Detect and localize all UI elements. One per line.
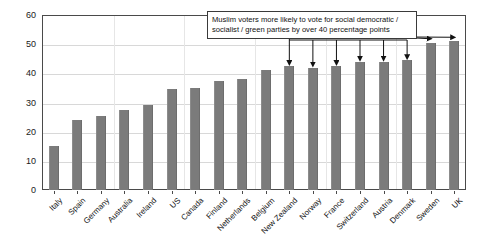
bar-slot [325,15,349,190]
bar-slot [160,15,184,190]
x-axis-label-australia: Australia [106,196,134,224]
bar-slot [278,15,302,190]
bars-layer [42,15,466,190]
x-axis-tick [431,191,432,194]
x-axis-tick [360,191,361,194]
x-axis-tick [124,191,125,194]
annotation-callout: Muslim voters more likely to vote for so… [207,11,417,39]
x-axis-label-italy: Italy [47,196,64,213]
x-axis-tick [336,191,337,194]
bar-spain [72,120,82,190]
bar-netherlands [237,79,247,190]
x-axis-tick [77,191,78,194]
y-axis-tick-label: 50 [26,40,36,49]
x-axis-label-canada: Canada [179,196,205,222]
y-axis-tick-label: 10 [26,156,36,165]
x-axis-tick [219,191,220,194]
x-axis-tick [384,191,385,194]
bar-slot [230,15,254,190]
bar-australia [119,110,129,190]
x-axis-tick [242,191,243,194]
bar-norway [308,68,318,191]
y-axis-tick-label: 20 [26,127,36,136]
bar-slot [442,15,466,190]
x-axis-tick [54,191,55,194]
x-axis-tick [266,191,267,194]
bar-italy [49,146,59,190]
y-axis-tick-label: 40 [26,69,36,78]
x-axis-tick [407,191,408,194]
bar-slot [372,15,396,190]
annotation-line-2: socialist / green parties by over 40 per… [212,25,412,35]
x-axis-tick [313,191,314,194]
bar-slot [254,15,278,190]
bar-france [331,66,341,190]
x-axis-label-ireland: Ireland [135,196,159,220]
bar-canada [190,88,200,190]
annotation-line-1: Muslim voters more likely to vote for so… [212,15,412,25]
bar-finland [214,81,224,190]
bar-slot [66,15,90,190]
bar-slot [419,15,443,190]
bar-slot [113,15,137,190]
x-axis-label-norway: Norway [298,196,324,222]
bar-new-zealand [284,66,294,190]
x-axis-label-us: US [168,196,182,210]
bar-slot [395,15,419,190]
x-axis-tick [195,191,196,194]
bar-slot [136,15,160,190]
bar-switzerland [355,62,365,190]
bar-slot [301,15,325,190]
bar-slot [42,15,66,190]
y-axis: 0102030405060 [0,0,42,205]
y-axis-tick-label: 0 [31,186,36,195]
x-axis-tick [172,191,173,194]
x-axis-tick [454,191,455,194]
bar-ireland [143,105,153,190]
y-axis-tick-label: 30 [26,98,36,107]
x-axis: ItalySpainGermanyAustraliaIrelandUSCanad… [42,191,466,250]
x-axis-tick [289,191,290,194]
x-axis-label-uk: UK [450,196,464,210]
bar-slot [207,15,231,190]
bar-slot [348,15,372,190]
bar-uk [449,41,459,190]
bar-us [167,89,177,190]
x-axis-label-sweden: Sweden [414,196,441,223]
x-axis-label-spain: Spain [67,196,88,217]
bar-belgium [261,70,271,190]
bar-austria [379,62,389,190]
bar-chart: 0102030405060 ItalySpainGermanyAustralia… [0,0,478,250]
bar-germany [96,116,106,190]
x-axis-tick [101,191,102,194]
bar-slot [183,15,207,190]
y-axis-tick-label: 60 [26,11,36,20]
bar-slot [89,15,113,190]
bar-sweden [426,43,436,190]
bar-denmark [402,60,412,190]
x-axis-tick [148,191,149,194]
